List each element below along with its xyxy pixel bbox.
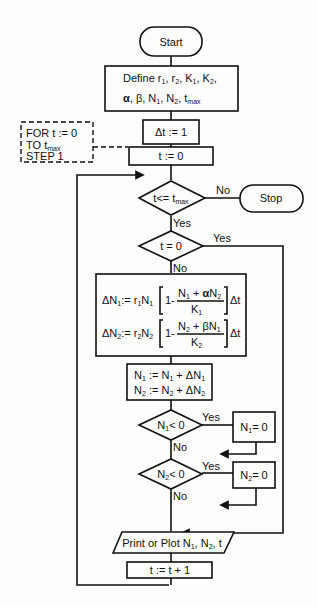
svg-text:No: No: [216, 184, 230, 196]
set-n2-box: N2= 0: [233, 462, 275, 488]
svg-text:t := t + 1: t := t + 1: [150, 564, 190, 576]
t-init-box: t := 0: [129, 147, 213, 165]
svg-text:Start: Start: [159, 36, 182, 48]
svg-text:N1= 0: N1= 0: [240, 421, 267, 434]
loop-note: FOR t := 0 TO tmax STEP 1: [21, 122, 93, 162]
increment-box: t := t + 1: [127, 562, 212, 578]
svg-text:FOR t := 0: FOR t := 0: [26, 127, 77, 139]
flowchart: Start Define r1, r2, K1, K2, α, β, N1, N…: [0, 0, 317, 607]
define-box: Define r1, r2, K1, K2, α, β, N1, N2, tma…: [105, 66, 238, 111]
start-terminal: Start: [140, 27, 202, 56]
svg-text:Δt := 1: Δt := 1: [155, 126, 187, 138]
svg-text:Δt: Δt: [230, 294, 240, 306]
svg-text:Yes: Yes: [213, 232, 231, 244]
svg-text:N2 + βN1: N2 + βN1: [178, 320, 221, 333]
svg-text:1-: 1-: [165, 294, 175, 306]
svg-text:Stop: Stop: [260, 192, 283, 204]
svg-text:Print or Plot N1, N2, t: Print or Plot N1, N2, t: [122, 537, 222, 550]
decision-tmax: t<= tmax No Yes: [139, 181, 230, 229]
svg-text:No: No: [173, 262, 187, 274]
decision-t0: t = 0 Yes No: [139, 231, 231, 274]
svg-text:Yes: Yes: [173, 217, 191, 229]
svg-text:N2< 0: N2< 0: [157, 468, 184, 481]
svg-text:Δt: Δt: [230, 327, 240, 339]
svg-text:Yes: Yes: [202, 460, 220, 472]
equations-box: ΔN1:= r1N1 1- N1 + αN2 K1 Δt ΔN2:= r2N2 …: [96, 274, 246, 356]
svg-text:t = 0: t = 0: [160, 240, 182, 252]
decision-n1: N1< 0 Yes No: [139, 410, 220, 453]
set-n1-box: N1= 0: [233, 412, 275, 442]
svg-text:ΔN1:= r1N1: ΔN1:= r1N1: [102, 294, 153, 307]
svg-text:N1 + αN2: N1 + αN2: [178, 287, 221, 300]
svg-text:t := 0: t := 0: [159, 150, 184, 162]
svg-text:No: No: [173, 441, 187, 453]
svg-text:No: No: [173, 490, 187, 502]
svg-text:1-: 1-: [165, 327, 175, 339]
decision-n2: N2< 0 Yes No: [139, 459, 220, 502]
svg-text:N2= 0: N2= 0: [240, 469, 267, 482]
svg-text:Define r1, r2, K1, K2,: Define r1, r2, K1, K2,: [123, 72, 217, 85]
dt-box: Δt := 1: [143, 120, 199, 144]
svg-text:Yes: Yes: [202, 411, 220, 423]
update-box: N1 := N1 + ΔN1 N2 := N2 + ΔN2: [127, 364, 212, 400]
stop-terminal: Stop: [240, 185, 303, 212]
svg-text:STEP 1: STEP 1: [26, 150, 64, 162]
print-io: Print or Plot N1, N2, t: [113, 532, 234, 553]
svg-text:ΔN2:= r2N2: ΔN2:= r2N2: [102, 327, 153, 340]
svg-text:N1< 0: N1< 0: [157, 419, 184, 432]
